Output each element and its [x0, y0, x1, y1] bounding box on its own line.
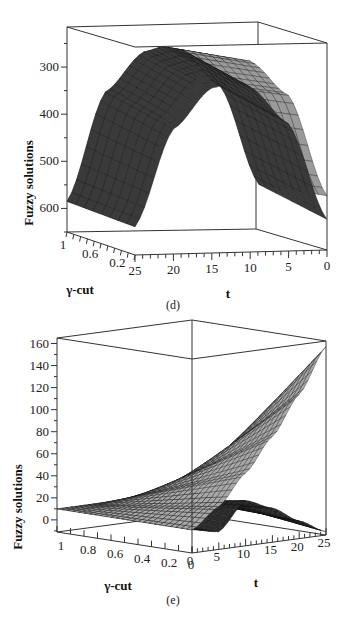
z-tick-label: 60: [36, 446, 49, 461]
frame-edge: [192, 341, 326, 359]
gamma-tick: [127, 253, 128, 258]
z-tick-label: 300: [40, 59, 60, 74]
frame-edge: [67, 22, 258, 27]
gamma-tick-label: 1: [60, 237, 67, 252]
chart-d-gamma-label: γ-cut: [65, 282, 94, 297]
t-tick-label: 20: [167, 262, 180, 277]
t-tick-label: 15: [264, 542, 277, 557]
gamma-tick: [86, 239, 87, 244]
z-tick-label: 400: [40, 106, 60, 121]
chart-e-gamma-label: γ-cut: [103, 578, 132, 593]
origin-tick-label: 0: [188, 557, 195, 572]
gamma-tick: [80, 237, 81, 242]
figure: 300400500600 2520151050 10.60.2 Fuzzy so…: [0, 0, 350, 627]
z-tick-label: 160: [30, 336, 50, 351]
t-tick-label: 0: [324, 258, 331, 273]
gamma-tick-label: 0.6: [107, 546, 124, 561]
chart-e-z-ticks: 020406080100120140160: [30, 336, 58, 531]
gamma-tick: [100, 244, 101, 249]
gamma-tick: [73, 234, 74, 239]
frame-edge: [256, 229, 327, 250]
surface-patch: [316, 347, 326, 358]
chart-d-t-label: t: [226, 286, 231, 301]
chart-e-zlabel: Fuzzy solutions: [10, 464, 25, 550]
frame-edge: [67, 229, 256, 232]
gamma-tick-label: 0.2: [109, 255, 125, 270]
chart-d-surface: [67, 47, 327, 227]
t-tick-label: 20: [291, 539, 304, 554]
chart-d-z-ticks: 300400500600: [40, 43, 68, 232]
z-tick-label: 0: [43, 512, 50, 527]
surface-patch: [316, 529, 326, 532]
gamma-tick-label: 0.2: [161, 555, 177, 570]
chart-e-gamma-ticks: 10.80.60.40.20: [57, 526, 194, 572]
chart-d: 300400500600 2520151050 10.60.2 Fuzzy so…: [21, 22, 330, 312]
z-tick-label: 600: [40, 200, 60, 215]
chart-e-t-ticks: 0510152025: [187, 528, 331, 568]
frame-edge: [57, 320, 192, 338]
t-tick-label: 10: [237, 546, 250, 561]
frame-edge: [57, 338, 192, 359]
z-tick-label: 20: [36, 490, 49, 505]
gamma-tick-label: 1: [58, 538, 65, 553]
t-tick-label: 25: [129, 263, 142, 278]
gamma-tick-label: 0.4: [134, 551, 151, 566]
frame-edge: [135, 43, 327, 47]
chart-d-zlabel: Fuzzy solutions: [21, 140, 36, 226]
frame-edge: [192, 320, 326, 341]
t-tick-label: 5: [285, 259, 292, 274]
t-tick-label: 15: [205, 261, 218, 276]
gamma-tick: [107, 246, 108, 251]
z-tick-label: 140: [30, 358, 50, 373]
surface-patch: [312, 352, 322, 366]
chart-e-caption: (e): [166, 593, 179, 607]
z-tick-label: 80: [36, 424, 49, 439]
chart-e-frame-front: [57, 338, 326, 553]
z-tick-label: 120: [30, 380, 50, 395]
gamma-tick-label: 0.8: [80, 542, 96, 557]
frame-edge: [258, 22, 327, 43]
chart-e: 020406080100120140160 0510152025 10.80.6…: [10, 320, 331, 607]
chart-d-caption: (d): [166, 298, 180, 312]
t-tick-label: 25: [318, 535, 331, 550]
chart-e-t-label: t: [254, 575, 259, 590]
gamma-tick-label: 0.6: [82, 246, 99, 261]
frame-edge: [135, 250, 327, 255]
frame-edge: [192, 535, 326, 553]
z-tick-label: 40: [36, 468, 49, 483]
gamma-tick: [114, 248, 115, 253]
t-tick-label: 5: [214, 549, 221, 564]
z-tick-label: 100: [30, 402, 50, 417]
z-tick-label: 500: [40, 153, 60, 168]
frame-edge: [67, 27, 135, 47]
t-tick-label: 10: [244, 260, 257, 275]
